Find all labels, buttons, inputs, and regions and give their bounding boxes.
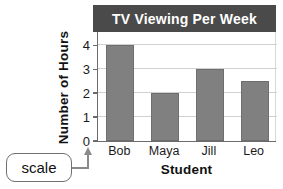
bar-jill <box>196 69 224 141</box>
y-axis-tick-mark <box>93 92 98 94</box>
bar-maya <box>151 93 179 141</box>
plot-area: 01234 <box>97 32 276 142</box>
x-axis-tick-label: Jill <box>202 145 217 158</box>
chart-title-bar: TV Viewing Per Week <box>93 5 276 32</box>
x-axis-title: Student <box>97 162 276 177</box>
up-arrow-icon <box>84 147 92 155</box>
y-axis-tick-label: 4 <box>83 39 90 52</box>
x-axis-tick-label: Maya <box>149 145 180 158</box>
y-axis-tick-mark <box>93 69 98 71</box>
plot-right-edge <box>275 32 276 141</box>
scale-callout-box: scale <box>6 153 72 182</box>
x-axis-tick-label: Bob <box>108 145 130 158</box>
y-axis-tick-mark <box>93 140 98 142</box>
scale-callout-label: scale <box>21 160 56 175</box>
y-axis-tick-label: 2 <box>83 87 90 100</box>
y-axis-title-text: Number of Hours <box>57 30 72 143</box>
chart-title: TV Viewing Per Week <box>112 12 257 26</box>
y-axis-tick-mark <box>93 116 98 118</box>
x-axis-tick-label: Leo <box>243 145 264 158</box>
callout-riser-line <box>87 154 89 168</box>
bar-bob <box>106 45 134 141</box>
y-axis-tick-label: 1 <box>83 111 90 124</box>
y-axis-tick-mark <box>93 45 98 47</box>
bar-leo <box>241 81 269 141</box>
bar-chart-figure: TV Viewing Per Week Number of Hours 0123… <box>0 0 283 189</box>
y-axis-title: Number of Hours <box>54 32 74 142</box>
y-axis-tick-label: 0 <box>83 135 90 148</box>
y-axis-tick-label: 3 <box>83 63 90 76</box>
